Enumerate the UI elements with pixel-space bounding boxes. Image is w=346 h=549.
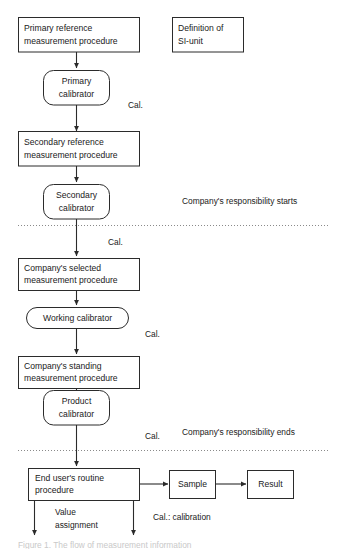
node-primary-reference-procedure-line2: measurement procedure (24, 36, 118, 46)
node-end-user-routine-procedure: End user's routine procedure (29, 469, 140, 501)
flowchart-canvas: Primary reference measurement procedure … (0, 0, 346, 549)
node-company-selected-procedure-line2: measurement procedure (24, 275, 118, 285)
node-definition-si-unit-line1: Definition of (178, 23, 224, 33)
figure-caption: Figure 1. The flow of measurement inform… (18, 540, 192, 549)
node-product-calibrator-line1: Product (62, 396, 92, 406)
node-end-user-routine-procedure-line1: End user's routine (35, 473, 104, 483)
node-primary-calibrator-line1: Primary (62, 76, 92, 86)
annotation-responsibility-ends: Company's responsibility ends (182, 427, 295, 437)
node-secondary-calibrator-line2: calibrator (59, 203, 94, 213)
node-result: Result (248, 471, 294, 499)
node-working-calibrator-label: Working calibrator (43, 313, 112, 323)
node-primary-reference-procedure: Primary reference measurement procedure (19, 18, 140, 53)
node-sample: Sample (170, 471, 216, 499)
annotation-responsibility-starts: Company's responsibility starts (182, 196, 297, 206)
node-secondary-reference-procedure-line1: Secondary reference (24, 137, 104, 147)
node-definition-si-unit: Definition of SI-unit (173, 18, 244, 53)
annotation-value-assignment-line2: assignment (55, 520, 99, 530)
node-primary-calibrator-line2: calibrator (59, 89, 94, 99)
node-sample-label: Sample (178, 479, 207, 489)
node-definition-si-unit-line2: SI-unit (178, 36, 203, 46)
node-secondary-reference-procedure: Secondary reference measurement procedur… (19, 132, 140, 167)
node-company-selected-procedure-line1: Company's selected (24, 263, 101, 273)
annotation-value-assignment-line1: Value (55, 507, 76, 517)
edge-label-cal-1: Cal. (128, 100, 143, 110)
node-product-calibrator-line2: calibrator (59, 409, 94, 419)
node-primary-reference-procedure-line1: Primary reference (24, 23, 93, 33)
node-company-selected-procedure: Company's selected measurement procedure (19, 259, 140, 291)
connector-group (35, 52, 247, 535)
edge-label-cal-2: Cal. (108, 237, 123, 247)
node-company-standing-procedure-line1: Company's standing (24, 361, 102, 371)
annotation-legend-cal: Cal.: calibration (153, 512, 211, 522)
node-product-calibrator: Product calibrator (44, 391, 110, 426)
traceability-chain-diagram: Primary reference measurement procedure … (0, 0, 346, 549)
node-secondary-calibrator-line1: Secondary (56, 190, 98, 200)
node-primary-calibrator: Primary calibrator (44, 71, 110, 106)
node-working-calibrator: Working calibrator (27, 308, 129, 329)
node-end-user-routine-procedure-line2: procedure (35, 485, 74, 495)
node-company-standing-procedure-line2: measurement procedure (24, 373, 118, 383)
node-company-standing-procedure: Company's standing measurement procedure (19, 357, 140, 389)
node-secondary-reference-procedure-line2: measurement procedure (24, 150, 118, 160)
node-secondary-calibrator: Secondary calibrator (44, 185, 110, 220)
edge-label-cal-4: Cal. (145, 431, 160, 441)
edge-label-cal-3: Cal. (145, 329, 160, 339)
node-result-label: Result (258, 479, 283, 489)
